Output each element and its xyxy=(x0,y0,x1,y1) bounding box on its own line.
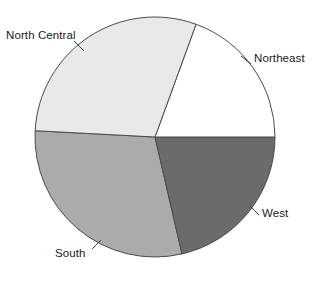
pie-label-west: West xyxy=(262,208,288,220)
pie-chart-figure: North Central Northeast West South xyxy=(0,0,314,284)
pie-slices-group xyxy=(35,17,275,257)
pie-chart-svg xyxy=(0,0,314,284)
pie-label-northeast: Northeast xyxy=(254,53,305,65)
pie-label-south: South xyxy=(55,248,86,260)
leader-line-west xyxy=(250,206,259,215)
pie-label-north-central: North Central xyxy=(6,30,76,42)
